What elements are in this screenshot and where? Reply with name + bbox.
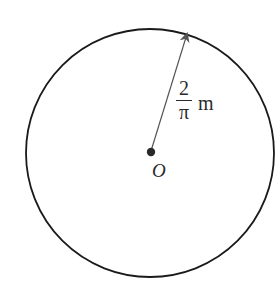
fraction-numerator: 2 xyxy=(176,78,192,101)
circle-diagram: 2 π m O xyxy=(0,0,276,287)
radius-unit: m xyxy=(198,92,214,115)
fraction-denominator: π xyxy=(176,101,192,122)
radius-fraction: 2 π xyxy=(176,78,192,122)
diagram-canvas xyxy=(0,0,276,287)
center-point xyxy=(147,148,155,156)
center-label: O xyxy=(152,160,166,182)
